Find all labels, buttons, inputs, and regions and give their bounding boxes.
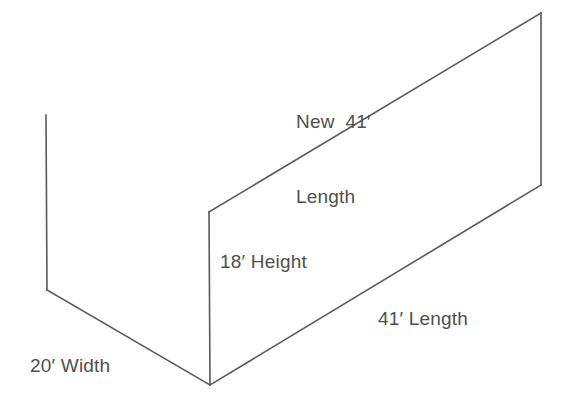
label-new-length-line-2: Length — [296, 184, 371, 209]
edge-new-length-top-diagonal — [209, 13, 541, 212]
label-new-length-line-1: New 41′ — [296, 109, 371, 134]
label-new-length: New 41′ Length — [296, 59, 371, 259]
label-height: 18′ Height — [220, 249, 307, 274]
wall-diagram-svg — [0, 0, 574, 406]
edge-back-left-vertical — [46, 115, 47, 290]
edge-height-vertical — [209, 212, 210, 385]
label-length: 41′ Length — [378, 306, 468, 331]
edge-length-bottom-diagonal — [210, 185, 541, 385]
label-width: 20′ Width — [30, 353, 110, 378]
diagram-canvas: New 41′ Length 18′ Height 41′ Length 20′… — [0, 0, 574, 406]
